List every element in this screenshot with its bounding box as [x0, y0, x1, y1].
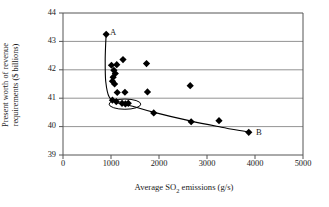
pareto-frontier-curve [105, 33, 249, 132]
x-axis-label-post: emissions (g/s) [179, 182, 233, 192]
annotation-label-a: A [110, 27, 116, 37]
x-tick-label: 1000 [94, 159, 128, 168]
y-axis-label: Present worth of revenue requirements ($… [2, 12, 20, 157]
x-tick-label: 3000 [190, 159, 224, 168]
x-axis-label: Average SO2 emissions (g/s) [60, 182, 308, 194]
y-tick-marks [59, 13, 63, 155]
annotation-label-b: B [256, 127, 262, 137]
y-tick-label: 41 [34, 93, 56, 102]
gridlines [63, 41, 303, 126]
data-point [188, 118, 195, 125]
y-axis-label-line1: Present worth of revenue [1, 43, 10, 127]
data-point [215, 117, 222, 124]
y-tick-label: 43 [34, 36, 56, 45]
data-point [150, 109, 157, 116]
x-axis-label-pre: Average SO [135, 182, 177, 192]
chart-figure: Present worth of revenue requirements ($… [0, 0, 329, 207]
y-tick-label: 39 [34, 150, 56, 159]
data-point [103, 31, 110, 38]
y-tick-label: 42 [34, 64, 56, 73]
x-tick-label: 2000 [142, 159, 176, 168]
data-point [114, 89, 121, 96]
y-tick-label: 44 [34, 8, 56, 17]
data-point [187, 82, 194, 89]
data-point [144, 88, 151, 95]
x-tick-label: 5000 [286, 159, 320, 168]
x-tick-label: 4000 [238, 159, 272, 168]
data-point-markers [103, 31, 253, 136]
data-point [119, 56, 126, 63]
y-axis-label-line2: requirements ($ billions) [11, 43, 20, 126]
data-point [121, 89, 128, 96]
data-point [143, 60, 150, 67]
axes [63, 13, 303, 155]
data-point [245, 129, 252, 136]
x-tick-label: 0 [46, 159, 80, 168]
y-tick-label: 40 [34, 121, 56, 130]
plot-canvas [0, 0, 329, 207]
